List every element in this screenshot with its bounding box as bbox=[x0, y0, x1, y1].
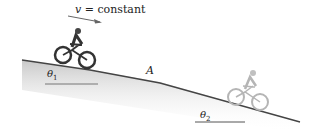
theta2-subscript: 2 bbox=[206, 115, 210, 123]
velocity-text: = constant bbox=[81, 3, 145, 16]
cyclist-slope-diagram: v = constant A θ1 θ2 bbox=[0, 0, 316, 133]
ground-shading bbox=[22, 60, 300, 133]
point-a-label: A bbox=[146, 64, 154, 77]
cyclist-2-icon bbox=[228, 70, 268, 110]
velocity-label: v = constant bbox=[75, 3, 145, 16]
diagram-canvas bbox=[0, 0, 316, 133]
theta1-label: θ1 bbox=[47, 68, 58, 82]
velocity-arrow-icon bbox=[68, 16, 102, 24]
theta2-label: θ2 bbox=[200, 109, 211, 123]
theta1-subscript: 1 bbox=[53, 74, 57, 82]
cyclist-1-icon bbox=[55, 28, 95, 68]
